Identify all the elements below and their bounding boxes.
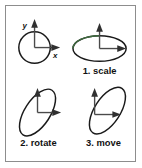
transformation-diagram: y x 1. scale bbox=[6, 6, 135, 161]
rotate-x-axis bbox=[38, 109, 62, 116]
move-x-axis bbox=[95, 111, 122, 118]
caption-scale: 1. scale bbox=[83, 66, 117, 76]
moved-ellipse bbox=[82, 81, 132, 140]
scale-x-axis bbox=[100, 45, 127, 52]
panel-scale: 1. scale bbox=[73, 23, 126, 76]
origin-x-axis bbox=[35, 44, 61, 51]
caption-move: 3. move bbox=[86, 138, 121, 148]
caption-rotate: 2. rotate bbox=[20, 138, 56, 148]
figure-frame: y x 1. scale bbox=[5, 5, 136, 162]
y-axis-label: y bbox=[22, 21, 28, 30]
panel-origin: y x bbox=[19, 19, 60, 63]
scaled-ellipse-highlight bbox=[73, 36, 100, 49]
x-axis-label: x bbox=[52, 51, 58, 60]
panel-move: 3. move bbox=[82, 81, 132, 148]
panel-rotate: 2. rotate bbox=[12, 83, 62, 148]
origin-y-axis bbox=[31, 19, 38, 48]
